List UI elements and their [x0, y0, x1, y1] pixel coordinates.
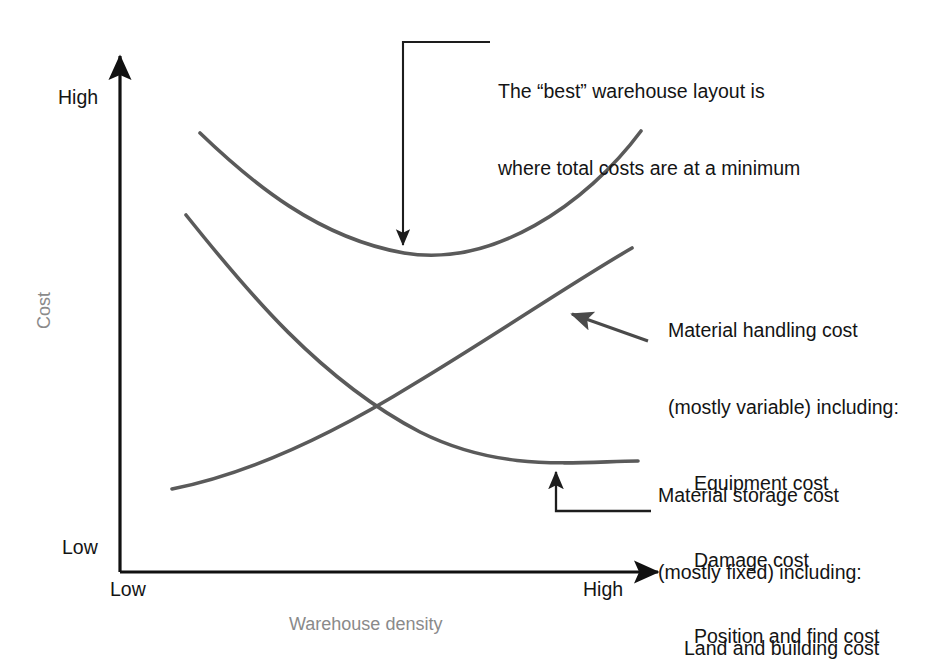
material-storage-annotation: Material storage cost (mostly fixed) inc…: [658, 432, 881, 669]
y-axis-low-label: Low: [62, 536, 98, 559]
handling-annotation-line-1: Material handling cost: [668, 318, 899, 344]
total-cost-annotation-line-1: The “best” warehouse layout is: [498, 79, 800, 105]
total-cost-callout-leader: [403, 42, 490, 245]
handling-cost-callout-leader: [572, 314, 648, 341]
warehouse-density-cost-chart: High Low Low High Cost Warehouse density…: [0, 0, 936, 669]
x-axis-title: Warehouse density: [289, 614, 442, 635]
x-axis-high-label: High: [583, 578, 623, 601]
storage-annotation-line-1: Material storage cost: [658, 483, 881, 509]
y-axis-high-label: High: [58, 86, 98, 109]
storage-annotation-item-1: Land and building cost: [658, 636, 881, 662]
handling-annotation-line-2: (mostly variable) including:: [668, 395, 899, 421]
material-storage-cost-curve: [186, 215, 638, 463]
total-cost-annotation-line-2: where total costs are at a minimum: [498, 156, 800, 182]
storage-annotation-line-2: (mostly fixed) including:: [658, 560, 881, 586]
material-handling-cost-curve: [172, 248, 632, 489]
storage-cost-callout-leader: [556, 472, 651, 511]
x-axis-low-label: Low: [110, 578, 146, 601]
y-axis-title: Cost: [34, 266, 55, 356]
total-cost-annotation: The “best” warehouse layout is where tot…: [498, 28, 800, 232]
